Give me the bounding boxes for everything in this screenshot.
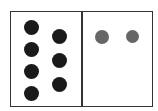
black-dot xyxy=(52,53,67,68)
panel-divider xyxy=(81,11,83,107)
black-dot xyxy=(52,29,67,44)
black-dot xyxy=(52,77,67,92)
black-dot xyxy=(24,42,39,57)
black-dot xyxy=(24,64,39,79)
gray-dot xyxy=(126,30,139,43)
black-dot xyxy=(24,20,39,35)
gray-dot xyxy=(95,30,109,44)
black-dot xyxy=(24,86,39,101)
